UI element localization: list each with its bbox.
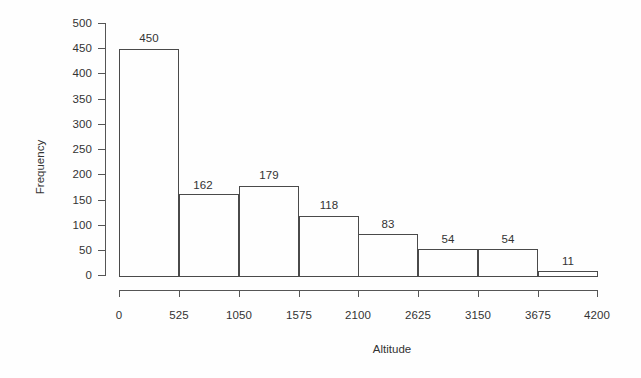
histogram-bar[interactable] [299, 216, 359, 277]
y-tick-label: 0 [36, 270, 92, 282]
y-tick-mark [98, 174, 105, 175]
bar-value-label: 162 [193, 180, 213, 192]
x-tick-mark [418, 290, 419, 297]
bar-value-label: 54 [502, 234, 515, 246]
y-tick-mark [98, 99, 105, 100]
y-tick-label: 50 [36, 245, 92, 257]
y-tick-label: 400 [36, 68, 92, 80]
bar-value-label: 118 [320, 200, 339, 212]
bar-value-label: 83 [382, 219, 395, 231]
x-tick-label: 4200 [584, 310, 610, 322]
histogram-bar[interactable] [478, 249, 538, 277]
y-tick-label: 300 [36, 119, 92, 131]
histogram-bar[interactable] [239, 186, 299, 277]
bar-value-label: 11 [562, 256, 574, 268]
x-tick-label: 1575 [286, 310, 312, 322]
x-tick-label: 3150 [465, 310, 491, 322]
x-tick-mark [358, 290, 359, 297]
bar-value-label: 54 [442, 234, 455, 246]
x-tick-label: 525 [169, 310, 189, 322]
y-axis-line [105, 23, 106, 276]
y-tick-mark [98, 73, 105, 74]
histogram-figure: 0 50 100 150 200 250 300 350 400 450 500… [0, 0, 641, 378]
x-axis-title: Altitude [373, 343, 411, 355]
y-tick-mark [98, 250, 105, 251]
y-axis-title: Frequency [34, 140, 46, 194]
x-tick-mark [538, 290, 539, 297]
y-tick-label: 150 [36, 195, 92, 207]
x-tick-mark [119, 290, 120, 297]
x-tick-label: 1050 [226, 310, 252, 322]
y-tick-mark [98, 23, 105, 24]
x-tick-label: 2625 [405, 310, 431, 322]
x-tick-mark [597, 290, 598, 297]
y-tick-mark [98, 225, 105, 226]
plot-area: 0 50 100 150 200 250 300 350 400 450 500… [0, 0, 641, 378]
histogram-bar[interactable] [179, 194, 239, 277]
bar-value-label: 450 [139, 33, 159, 45]
y-tick-mark [98, 48, 105, 49]
x-tick-mark [478, 290, 479, 297]
x-tick-mark [179, 290, 180, 297]
x-tick-label: 3675 [525, 310, 551, 322]
bar-value-label: 179 [259, 170, 279, 182]
x-tick-mark [239, 290, 240, 297]
y-tick-mark [98, 200, 105, 201]
histogram-bar[interactable] [358, 234, 418, 277]
x-tick-mark [299, 290, 300, 297]
y-tick-label: 500 [36, 18, 92, 30]
y-tick-label: 450 [36, 43, 92, 55]
y-tick-label: 350 [36, 94, 92, 106]
y-tick-mark [98, 275, 105, 276]
histogram-bar[interactable] [538, 271, 598, 277]
y-tick-mark [98, 149, 105, 150]
y-tick-label: 100 [36, 220, 92, 232]
x-tick-label: 0 [116, 310, 123, 322]
y-tick-mark [98, 124, 105, 125]
histogram-bar[interactable] [119, 49, 179, 277]
x-tick-label: 2100 [345, 310, 371, 322]
histogram-bar[interactable] [418, 249, 478, 277]
